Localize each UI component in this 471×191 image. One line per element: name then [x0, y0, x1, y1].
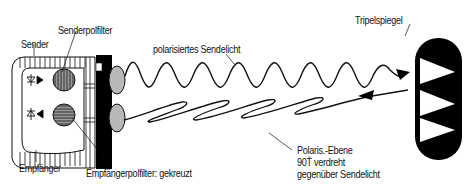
emitted-light-wave — [125, 62, 404, 87]
sender-filter-label: Senderpolfilter — [58, 24, 112, 36]
arrowhead-incoming-icon — [396, 69, 410, 80]
receiver-label: Empfänger — [19, 162, 61, 174]
receiver-lens — [109, 104, 125, 132]
sender-lens — [109, 66, 125, 94]
polarization-reflector-diagram: Sender Senderpolfilter Empfänger Empfäng… — [0, 0, 471, 191]
returned-light-label-line1: Polaris.-Ebene — [297, 144, 353, 156]
sender-label: Sender — [21, 38, 49, 50]
returned-light-label-line2: 90Ť verdreht — [297, 156, 345, 168]
reflector-label: Tripelspiegel — [355, 14, 403, 26]
sender-polfilter-icon — [53, 68, 75, 92]
returned-light-label-line3: gegenüber Sendelicht — [297, 168, 380, 180]
receiver-filter-label: Empfängerpolfilter: gekreuzt — [86, 167, 192, 179]
emitted-light-label: polarisiertes Sendelicht — [153, 43, 240, 55]
receiver-polfilter-icon — [52, 104, 76, 126]
retroreflector-icon — [415, 38, 462, 160]
